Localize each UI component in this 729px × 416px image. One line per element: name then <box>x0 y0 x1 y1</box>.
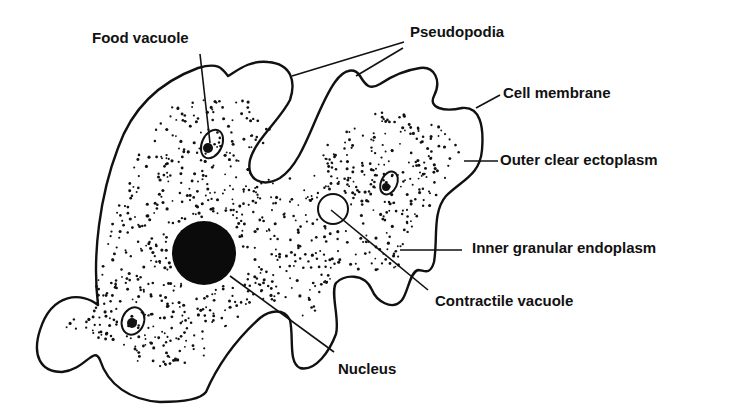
label-pseudopodia: Pseudopodia <box>410 24 504 39</box>
label-contractile-vacuole: Contractile vacuole <box>435 293 573 308</box>
cell-membrane-outline <box>37 62 483 402</box>
leader-nucleus <box>230 276 334 352</box>
label-cell-membrane: Cell membrane <box>503 85 611 100</box>
food-vacuole-shape-3 <box>118 304 148 338</box>
label-nucleus: Nucleus <box>338 361 396 376</box>
label-food-vacuole: Food vacuole <box>92 30 189 45</box>
leader-cell-membrane <box>476 95 500 108</box>
label-inner-granular-endoplasm: Inner granular endoplasm <box>472 240 656 255</box>
food-vacuole-shape-2 <box>377 169 402 198</box>
leader-pseudopodia-2 <box>356 48 403 76</box>
nucleus-shape <box>172 221 236 285</box>
label-outer-clear-ectoplasm: Outer clear ectoplasm <box>500 152 658 167</box>
amoeba-illustration <box>0 0 729 416</box>
endoplasm-granules <box>66 99 460 367</box>
amoeba-diagram: Food vacuole Pseudopodia Cell membrane O… <box>0 0 729 416</box>
